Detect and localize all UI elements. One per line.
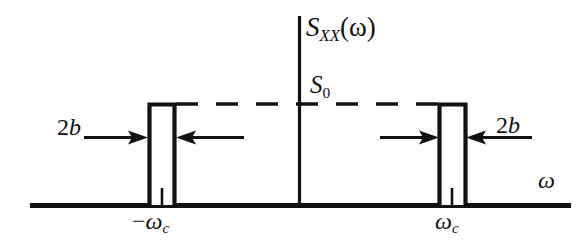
bandwidth-right-symbol: b — [508, 112, 520, 138]
positive-wc-base: ω — [435, 208, 452, 234]
x-tick-label-negative-wc: −ωc — [132, 209, 169, 236]
bandwidth-left-number: 2 — [57, 114, 69, 140]
y-axis-label-argument: (ω) — [340, 12, 376, 42]
bandwidth-label-right: 2b — [496, 113, 520, 137]
negative-wc-subscript: c — [163, 220, 170, 236]
positive-wc-subscript: c — [452, 220, 459, 236]
negative-sign: − — [132, 208, 146, 234]
width-arrow-left-outer — [84, 131, 148, 145]
x-axis-label: ω — [538, 168, 555, 192]
s0-label-subscript: 0 — [323, 84, 331, 101]
s0-level-label: S0 — [310, 72, 330, 100]
y-axis-label-base: S — [306, 12, 320, 42]
negative-wc-base: ω — [146, 208, 163, 234]
y-axis-label: SXX(ω) — [306, 14, 376, 45]
x-tick-label-positive-wc: ωc — [435, 209, 459, 236]
bandwidth-label-left: 2b — [57, 115, 81, 139]
bandwidth-right-number: 2 — [496, 112, 508, 138]
bandwidth-left-symbol: b — [69, 114, 81, 140]
psd-figure: SXX(ω) S0 2b 2b −ωc ωc ω — [0, 0, 586, 248]
width-arrow-right-inner — [380, 131, 439, 145]
width-arrow-left-inner — [176, 131, 244, 145]
y-axis-label-subscript: XX — [320, 26, 340, 45]
s0-label-base: S — [310, 71, 323, 98]
x-axis-label-base: ω — [538, 167, 555, 193]
